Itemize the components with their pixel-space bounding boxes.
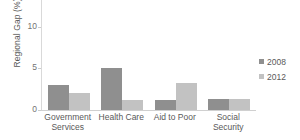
y-axis-tick-label: 0 (19, 105, 37, 114)
x-axis-label-2: Aid to Poor (148, 112, 202, 122)
bar-2008-3 (208, 99, 229, 110)
bar-group (208, 0, 250, 110)
legend-item-2008[interactable]: 2008 (259, 54, 300, 69)
y-axis-tick-mark (38, 110, 41, 111)
chart-legend: 20082012 (259, 54, 300, 84)
x-axis-category-labels: Government ServicesHealth CareAid to Poo… (41, 112, 256, 140)
legend-label: 2008 (267, 57, 286, 67)
x-axis-line (41, 110, 256, 111)
bar-2012-1 (122, 100, 143, 110)
bar-2012-2 (176, 83, 197, 110)
x-axis-label-3: Social Security (202, 112, 256, 132)
bar-group (155, 0, 197, 110)
plot-area: 0510 (41, 0, 256, 110)
bars-layer (42, 0, 256, 110)
bar-2008-2 (155, 100, 176, 110)
y-axis-tick-mark (38, 68, 41, 69)
x-axis-label-1: Health Care (95, 112, 149, 122)
bar-chart: Regional Gap (%) 0510 Government Service… (0, 0, 300, 140)
y-axis-tick-mark (38, 27, 41, 28)
y-axis-tick-label: 10 (19, 22, 37, 31)
bar-2012-0 (69, 93, 90, 111)
y-axis-tick-label: 5 (19, 63, 37, 72)
bar-2008-1 (101, 68, 122, 111)
bar-2008-0 (48, 85, 69, 110)
legend-item-2012[interactable]: 2012 (259, 69, 300, 84)
legend-label: 2012 (267, 72, 286, 82)
bar-2012-3 (229, 99, 250, 110)
x-axis-label-0: Government Services (41, 112, 95, 132)
bar-group (48, 0, 90, 110)
legend-swatch-icon (259, 74, 264, 79)
bar-group (101, 0, 143, 110)
legend-swatch-icon (259, 59, 264, 64)
